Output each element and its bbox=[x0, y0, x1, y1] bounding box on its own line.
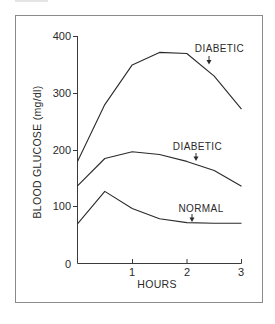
annotation-normal: NORMAL bbox=[178, 203, 223, 214]
y-tick-label-100: 100 bbox=[53, 200, 71, 212]
y-axis-title: BLOOD GLUCOSE (mg/dl) bbox=[31, 86, 43, 219]
arrow-down-icon bbox=[207, 56, 212, 65]
x-tick-label-2: 2 bbox=[184, 266, 190, 278]
y-tick-label-400: 400 bbox=[53, 30, 71, 42]
y-tick-label-200: 200 bbox=[53, 144, 71, 156]
x-tick-label-3: 3 bbox=[238, 266, 244, 278]
arrow-down-icon bbox=[190, 214, 195, 222]
x-tick-label-1: 1 bbox=[129, 266, 135, 278]
glucose-chart: 400 300 200 100 0 1 2 3 HOURS BLOOD GLUC… bbox=[0, 0, 275, 324]
y-tick-label-0: 0 bbox=[65, 258, 71, 270]
series-diabetic-mild-line bbox=[78, 152, 242, 187]
arrow-down-icon bbox=[194, 153, 199, 161]
annotation-diabetic-severe: DIABETIC bbox=[195, 43, 244, 54]
x-axis-title: HOURS bbox=[137, 278, 176, 290]
annotation-diabetic-mild: DIABETIC bbox=[173, 141, 222, 152]
y-tick-label-300: 300 bbox=[53, 87, 71, 99]
